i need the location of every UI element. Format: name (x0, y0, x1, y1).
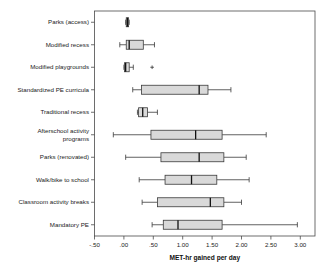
category-label: Classroom activity breaks (19, 198, 90, 205)
box (163, 220, 222, 229)
category-label: Parks (access) (48, 18, 89, 25)
x-axis-tick-label: 1.00 (177, 241, 190, 248)
box (157, 198, 223, 207)
box (142, 85, 208, 94)
category-label: Traditional recess (40, 108, 89, 115)
x-axis-tick-label: 2.50 (265, 241, 278, 248)
category-label: programs (63, 135, 89, 142)
x-axis-tick-label: .50 (149, 241, 158, 248)
category-label: Modified playgrounds (30, 63, 89, 70)
category-label: Standardized PE curricula (17, 86, 89, 93)
box (151, 130, 222, 139)
category-label: Afterschool activity (37, 127, 89, 134)
outlier-marker (150, 65, 154, 69)
category-label: Modified recess (46, 41, 89, 48)
box (161, 153, 224, 162)
x-axis-tick-label: 1.50 (206, 241, 219, 248)
category-label: Mandatory PE (50, 221, 89, 228)
x-axis-title: MET-hr gained per day (169, 254, 240, 262)
x-axis-tick-label: 2.00 (235, 241, 248, 248)
x-axis-tick-label: -.50 (89, 241, 100, 248)
boxplot-figure: -.50.00.501.001.502.002.503.00MET-hr gai… (0, 0, 328, 274)
x-axis-tick-label: 3.00 (294, 241, 307, 248)
x-axis-tick-label: .00 (120, 241, 129, 248)
category-label: Walk/bike to school (36, 176, 89, 183)
boxplot-svg: -.50.00.501.001.502.002.503.00MET-hr gai… (0, 0, 328, 274)
category-label: Parks (renovated) (40, 153, 89, 160)
